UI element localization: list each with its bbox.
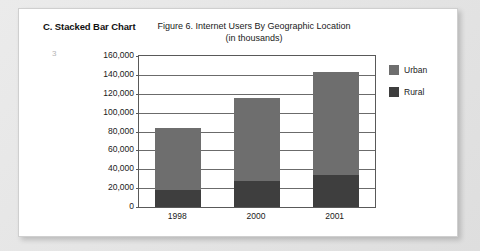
- legend-label: Urban: [404, 65, 427, 75]
- y-axis-tick: [136, 75, 139, 76]
- legend-item[interactable]: Rural: [389, 86, 455, 97]
- y-axis-tick: [136, 207, 139, 208]
- y-axis-tick: [136, 113, 139, 114]
- bar-segment-urban[interactable]: [313, 72, 359, 175]
- y-axis-tick-label: 0: [74, 202, 134, 210]
- page-backdrop: C. Stacked Bar Chart 3 Figure 6. Interne…: [0, 0, 480, 251]
- y-axis-tick: [136, 94, 139, 95]
- y-axis-tick: [136, 188, 139, 189]
- y-axis-tick: [136, 150, 139, 151]
- y-axis-tick-label: 80,000: [74, 127, 134, 135]
- chart-legend: UrbanRural: [389, 64, 455, 108]
- legend-item[interactable]: Urban: [389, 64, 455, 75]
- y-axis-tick: [136, 169, 139, 170]
- bar-segment-rural[interactable]: [313, 175, 359, 207]
- plot-area: [138, 55, 376, 208]
- bar-segment-rural[interactable]: [234, 181, 280, 207]
- legend-swatch-rural: [389, 87, 399, 97]
- y-axis-tick-label: 60,000: [74, 145, 134, 153]
- document-page-card: C. Stacked Bar Chart 3 Figure 6. Interne…: [18, 8, 458, 237]
- y-axis-tick: [136, 56, 139, 57]
- y-axis-tick-label: 140,000: [74, 70, 134, 78]
- y-axis-tick-label: 100,000: [74, 108, 134, 116]
- legend-swatch-urban: [389, 65, 399, 75]
- y-axis-tick-label: 40,000: [74, 164, 134, 172]
- stacked-bar-chart: 160,000140,000120,000100,00080,00060,000…: [19, 9, 459, 238]
- x-axis-tick-label: 2000: [221, 211, 291, 221]
- x-axis-tick-label: 1998: [142, 211, 212, 221]
- y-axis-labels: 160,000140,000120,000100,00080,00060,000…: [71, 55, 134, 206]
- y-axis-tick-label: 20,000: [74, 183, 134, 191]
- y-axis-tick: [136, 132, 139, 133]
- bar-segment-rural[interactable]: [155, 190, 201, 207]
- y-axis-tick-label: 120,000: [74, 89, 134, 97]
- legend-label: Rural: [404, 87, 424, 97]
- bar-segment-urban[interactable]: [234, 98, 280, 181]
- bar-segment-urban[interactable]: [155, 128, 201, 190]
- x-axis-tick-label: 2001: [300, 211, 370, 221]
- y-axis-tick-label: 160,000: [74, 51, 134, 59]
